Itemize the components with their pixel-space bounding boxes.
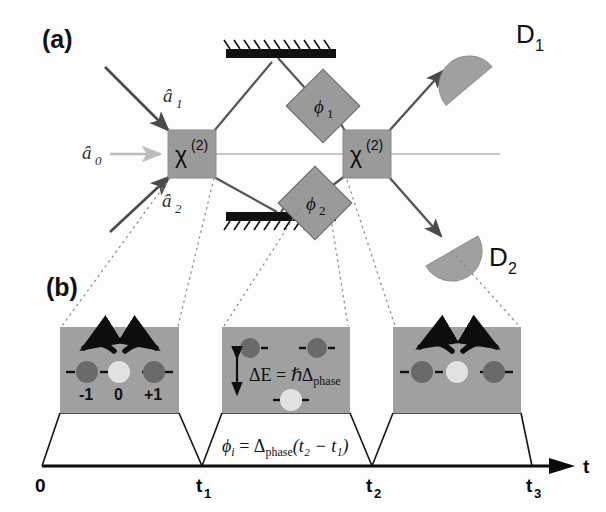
phase-formula-argument: (t₂ − t₁) bbox=[293, 436, 349, 457]
crystal-1-symbol: χ bbox=[175, 142, 187, 168]
time-axis: t bbox=[42, 456, 590, 477]
svg-text:ϕi = Δphase(t₂ − t₁): ϕi = Δphase(t₂ − t₁) bbox=[222, 436, 348, 459]
input-a1-label: â 1 bbox=[163, 85, 183, 111]
crystal-1[interactable]: χ (2) bbox=[168, 130, 216, 178]
input-a2-symbol: â bbox=[162, 190, 172, 211]
time-tick-t3-label: t bbox=[526, 475, 533, 496]
level-minus-one bbox=[411, 361, 433, 383]
beam-a1-input bbox=[105, 67, 168, 130]
energy-equals: = bbox=[272, 365, 291, 385]
beam-a2-input bbox=[110, 177, 169, 232]
input-a0-label: â 0 bbox=[82, 142, 102, 168]
phase-shifter-2-subscript: 2 bbox=[319, 203, 326, 218]
level-minus-one bbox=[76, 361, 98, 383]
input-a0-subscript: 0 bbox=[95, 153, 102, 168]
phase-formula-phi: ϕ bbox=[222, 436, 231, 456]
detector-2-letter: D bbox=[489, 242, 508, 272]
crystal-2[interactable]: χ (2) bbox=[343, 130, 391, 178]
panel-a-label: (a) bbox=[42, 25, 73, 53]
level-plus-one bbox=[307, 338, 327, 358]
crystal-1-superscript: (2) bbox=[191, 137, 208, 153]
level-plus-one-label: +1 bbox=[144, 386, 162, 403]
level-plus-one bbox=[483, 361, 505, 383]
time-tick-t2: t 2 bbox=[366, 475, 381, 501]
level-zero bbox=[446, 361, 468, 383]
phase-shifter-1-symbol: ϕ bbox=[314, 96, 324, 117]
phase-shifter-2[interactable]: ϕ 2 bbox=[278, 166, 352, 240]
panel-b-label: (b) bbox=[46, 273, 78, 301]
detector-1-label: D 1 bbox=[516, 19, 544, 54]
phase-formula-equals: = bbox=[235, 436, 254, 456]
time-tick-t1-subscript: 1 bbox=[204, 486, 211, 501]
time-tick-0-label: 0 bbox=[35, 475, 46, 496]
time-axis-arrowhead bbox=[549, 458, 575, 474]
level-zero bbox=[108, 361, 130, 383]
input-a1-symbol: â bbox=[163, 85, 173, 106]
detector-1[interactable] bbox=[427, 44, 492, 106]
input-a0-symbol: â bbox=[82, 142, 92, 163]
detector-2[interactable] bbox=[426, 236, 493, 292]
detector-1-letter: D bbox=[516, 19, 535, 49]
beam-output-d1 bbox=[389, 71, 443, 131]
level-zero bbox=[280, 389, 302, 411]
input-a2-subscript: 2 bbox=[175, 201, 182, 216]
inset-3 bbox=[393, 327, 521, 413]
phase-formula-delta: Δ bbox=[254, 436, 266, 456]
time-tick-t2-label: t bbox=[366, 475, 373, 496]
time-axis-label: t bbox=[583, 456, 590, 477]
input-a2-label: â 2 bbox=[162, 190, 182, 216]
physics-figure: ϕ 1 ϕ 2 χ (2) χ (2) D 1 bbox=[0, 0, 606, 512]
time-tick-0: 0 bbox=[35, 475, 46, 496]
phase-shifter-2-symbol: ϕ bbox=[306, 193, 316, 214]
level-minus-one-label: -1 bbox=[79, 386, 93, 403]
time-tick-t3: t 3 bbox=[526, 475, 541, 501]
inset-1: -1 0 +1 bbox=[60, 327, 179, 413]
inset-2: ΔE = ℏΔphase bbox=[222, 327, 350, 413]
energy-hbar-delta: ℏΔ bbox=[291, 365, 314, 385]
crystal-2-symbol: χ bbox=[350, 142, 362, 168]
level-plus-one bbox=[143, 361, 165, 383]
detector-2-label: D 2 bbox=[489, 242, 517, 277]
energy-subscript: phase bbox=[313, 374, 340, 388]
mirror-top bbox=[224, 40, 336, 58]
time-tick-t2-subscript: 2 bbox=[374, 486, 381, 501]
energy-delta-e: ΔE bbox=[249, 365, 272, 385]
phase-formula: ϕi = Δphase(t₂ − t₁) bbox=[222, 436, 348, 459]
time-tick-t3-subscript: 3 bbox=[534, 486, 541, 501]
level-zero-label: 0 bbox=[114, 386, 123, 403]
detector-1-subscript: 1 bbox=[535, 37, 544, 54]
phase-formula-delta-sub: phase bbox=[265, 445, 292, 459]
level-minus-one bbox=[240, 338, 260, 358]
input-a1-subscript: 1 bbox=[176, 96, 183, 111]
beam-output-d2 bbox=[389, 177, 441, 236]
crystal-2-superscript: (2) bbox=[366, 137, 383, 153]
figure-canvas: ϕ 1 ϕ 2 χ (2) χ (2) D 1 bbox=[0, 0, 606, 512]
detector-2-subscript: 2 bbox=[508, 260, 517, 277]
time-tick-t1: t 1 bbox=[196, 475, 211, 501]
time-tick-t1-label: t bbox=[196, 475, 203, 496]
phase-shifter-1-subscript: 1 bbox=[327, 106, 334, 121]
